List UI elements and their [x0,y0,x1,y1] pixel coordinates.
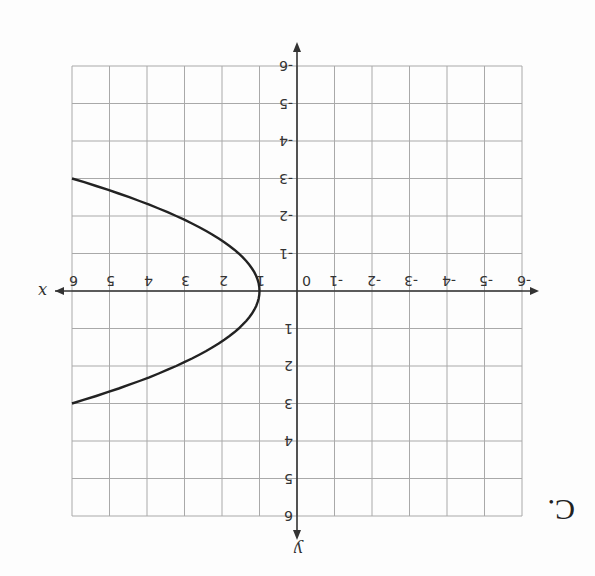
y-tick-neg-2: -2 [279,208,293,224]
y-tick-1: 1 [284,321,293,337]
rotated-figure: x y 0 1 2 3 4 5 6 -1 -2 -3 -4 -5 -6 1 2 … [38,42,575,559]
x-tick-5: 5 [106,273,115,289]
x-tick-neg-6: -6 [517,273,531,289]
y-tick-neg-5: -5 [279,96,293,112]
x-tick-neg-3: -3 [404,273,418,289]
x-tick-3: 3 [181,273,190,289]
x-tick-6: 6 [69,273,78,289]
y-axis-arrow-down-icon [293,42,301,52]
x-tick-2: 2 [219,273,228,289]
x-tick-4: 4 [144,273,153,289]
y-tick-neg-3: -3 [279,171,293,187]
x-tick-neg-4: -4 [442,273,456,289]
y-tick-4: 4 [284,433,293,449]
y-tick-2: 2 [284,358,293,374]
x-axis-arrow-icon [55,287,64,295]
y-axis-arrow-icon [293,530,301,540]
y-tick-neg-1: -1 [279,246,293,262]
y-tick-neg-4: -4 [279,133,293,149]
y-tick-6: 6 [284,508,293,524]
x-axis-label: x [38,282,47,301]
x-tick-neg-1: -1 [329,273,343,289]
coordinate-plane: x y 0 1 2 3 4 5 6 -1 -2 -3 -4 -5 -6 1 2 … [0,0,595,576]
graph-figure: x y 0 1 2 3 4 5 6 -1 -2 -3 -4 -5 -6 1 2 … [0,0,595,576]
y-axis-label: y [293,540,304,559]
y-tick-neg-6: -6 [279,58,293,74]
y-tick-3: 3 [284,396,293,412]
answer-choice-label: C. [547,494,575,527]
x-tick-neg-5: -5 [479,273,493,289]
x-tick-neg-2: -2 [367,273,381,289]
y-tick-5: 5 [284,471,293,487]
origin-label: 0 [302,273,311,289]
